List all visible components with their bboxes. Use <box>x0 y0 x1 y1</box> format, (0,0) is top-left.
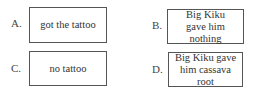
option-a-text: got the tattoo <box>40 19 95 31</box>
option-a-letter: A. <box>11 17 22 29</box>
option-c-box[interactable]: no tattoo <box>29 51 107 86</box>
option-a-box[interactable]: got the tattoo <box>29 7 107 43</box>
option-d-letter: D. <box>152 63 163 75</box>
option-b-box[interactable]: Big Kiku gave him nothing <box>167 9 244 44</box>
option-d-text: Big Kiku gave him cassava root <box>172 52 239 88</box>
option-b-letter: B. <box>152 19 162 31</box>
option-c-letter: C. <box>11 62 21 74</box>
option-b-text: Big Kiku gave him nothing <box>176 9 235 45</box>
option-d-box[interactable]: Big Kiku gave him cassava root <box>168 52 243 87</box>
option-c-text: no tattoo <box>49 63 86 75</box>
